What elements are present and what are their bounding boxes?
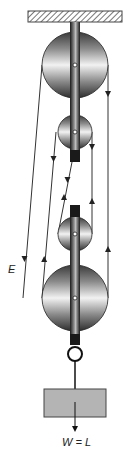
weight-label: W = L bbox=[62, 436, 91, 448]
arrow-down-icon bbox=[89, 144, 95, 150]
rope-segments bbox=[23, 65, 108, 298]
hook-ring bbox=[68, 347, 82, 361]
top-strap-end bbox=[70, 150, 80, 162]
effort-label: E bbox=[8, 263, 15, 275]
weight-arrow-down-icon bbox=[72, 426, 78, 432]
top-pulley-strap bbox=[70, 22, 80, 162]
arrow-down-icon bbox=[65, 177, 71, 183]
bottom-strap-end bbox=[70, 334, 80, 345]
pulley-diagram bbox=[0, 0, 127, 454]
arrow-up-icon bbox=[89, 198, 95, 204]
axle-icon bbox=[73, 130, 77, 134]
axle-icon bbox=[73, 296, 77, 300]
bottom-strap-top bbox=[70, 205, 80, 217]
axle-icon bbox=[73, 63, 77, 67]
ceiling-support bbox=[28, 11, 122, 22]
axle-icon bbox=[73, 232, 77, 236]
arrow-up-icon bbox=[105, 246, 111, 252]
effort-rope bbox=[23, 65, 42, 298]
arrow-up-icon bbox=[41, 256, 47, 262]
bottom-pulley-strap bbox=[70, 205, 80, 345]
arrow-down-icon bbox=[51, 156, 57, 162]
arrow-down-icon bbox=[105, 91, 111, 97]
